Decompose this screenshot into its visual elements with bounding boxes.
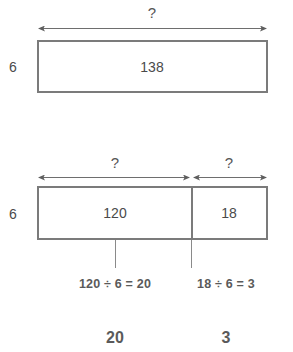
part-1-value: 120 [103,206,126,220]
equation-part-2: 18 ÷ 6 = 3 [197,278,255,291]
answer-part-2: 3 [222,330,231,346]
bar-segment-divider [191,186,193,240]
top-bar-divisor-label: 6 [9,60,17,74]
whole-bar-value: 138 [140,60,163,74]
equation-part-1: 120 ÷ 6 = 20 [79,278,151,291]
part-1-connector-line [115,240,116,268]
part-2-value: 18 [221,206,237,220]
part-2-unknown-label: ? [225,155,233,170]
answer-part-1: 20 [106,330,124,346]
part-2-connector-line [191,240,192,268]
bar-model-diagram: ? 6 138 ? ? 6 120 18 120 ÷ 6 = 20 18 ÷ 6… [0,0,293,352]
top-bar-unknown-label: ? [148,5,156,20]
part-1-unknown-label: ? [111,155,119,170]
partitioned-bar-divisor-label: 6 [9,207,17,221]
